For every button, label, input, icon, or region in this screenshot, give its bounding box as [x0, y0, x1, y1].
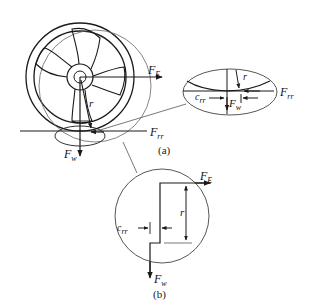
- inset-b-fw-label-sub: w: [161, 279, 166, 288]
- inset-a-fw-label-sub: w: [236, 103, 241, 112]
- fe-label-sub: E: [155, 70, 160, 79]
- spoke: [36, 48, 72, 67]
- wheel: [26, 23, 151, 146]
- caption-b: (b): [153, 289, 166, 300]
- inset-b-fe-label: FE: [200, 170, 212, 185]
- diagram-canvas: [0, 0, 310, 308]
- inset-b-crr-label: crr: [117, 223, 128, 236]
- inset-b-fw-label: Fw: [154, 273, 167, 288]
- fe-label: FE: [148, 64, 160, 79]
- spoke: [72, 28, 100, 69]
- inset-a-r-arrow: [236, 70, 239, 88]
- inset-a-fw-label-base: F: [229, 97, 236, 109]
- inset-a-r-label: r: [243, 72, 247, 82]
- fw-label: Fw: [64, 148, 77, 163]
- inset-b-fe-label-sub: E: [207, 176, 212, 185]
- frr-label: Frr: [150, 126, 164, 141]
- inset-b-crr-label-sub: rr: [121, 227, 127, 236]
- r-label: r: [89, 98, 93, 109]
- caption-a: (a): [158, 145, 170, 156]
- inset-b-r-label: r: [180, 207, 184, 218]
- inset-a-crr-label-sub: rr: [199, 96, 205, 105]
- inset-a-fw-label: Fw: [229, 98, 241, 112]
- inset-a-crr-label: crr: [195, 92, 206, 105]
- inset-a-frr-label-sub: rr: [287, 92, 293, 101]
- frr-label-sub: rr: [157, 132, 163, 141]
- spoke: [92, 67, 125, 95]
- inset-a-tire-arc: [187, 81, 270, 91]
- leader-line-b: [123, 142, 137, 173]
- inset-b: [115, 169, 211, 278]
- inset-a-frr-label: Frr: [280, 86, 294, 101]
- leader-line-a: [100, 104, 186, 130]
- fw-label-sub: w: [71, 154, 76, 163]
- wheel-forces: [20, 77, 162, 156]
- spoke: [36, 64, 67, 77]
